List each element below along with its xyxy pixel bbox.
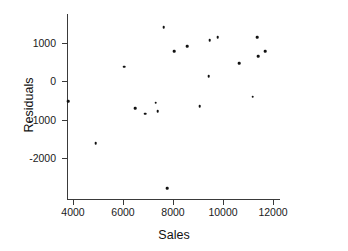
x-tick-mark [123, 200, 124, 205]
x-axis-title: Sales [0, 228, 348, 242]
data-point [186, 45, 189, 48]
data-point [123, 65, 126, 68]
data-point [144, 112, 147, 115]
x-tick-mark [73, 200, 74, 205]
data-point [162, 26, 165, 29]
data-point [173, 50, 176, 53]
data-point [94, 142, 97, 145]
x-tick-mark [223, 200, 224, 205]
data-point [216, 36, 219, 39]
x-tick-mark [273, 200, 274, 205]
data-point [208, 39, 211, 42]
x-tick-label: 12000 [243, 207, 303, 218]
data-point [238, 62, 241, 65]
data-point [264, 50, 267, 53]
scatter-chart: Sales Residuals 10000-1000-2000400060008… [0, 0, 348, 251]
y-tick-label: -2000 [0, 153, 56, 164]
data-point [251, 95, 254, 98]
y-tick-label: 1000 [0, 38, 56, 49]
y-tick-label: -1000 [0, 115, 56, 126]
data-point [256, 36, 259, 39]
x-tick-mark [173, 200, 174, 205]
data-point [198, 105, 201, 108]
data-point [166, 187, 169, 190]
data-point [154, 101, 157, 104]
data-point [207, 75, 210, 78]
data-point [134, 107, 137, 110]
data-point [156, 110, 159, 113]
data-point [257, 55, 260, 58]
plot-area [67, 14, 279, 199]
y-tick-label: 0 [0, 76, 56, 87]
data-point [67, 100, 70, 103]
